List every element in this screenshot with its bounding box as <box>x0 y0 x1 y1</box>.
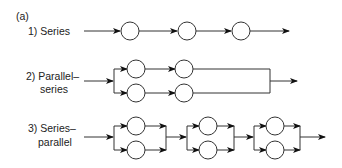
reliability-block-diagram <box>0 0 342 168</box>
component-node <box>199 117 217 135</box>
component-node <box>266 141 284 159</box>
parallel-series-network <box>84 60 297 102</box>
component-node <box>266 117 284 135</box>
series-chain <box>84 22 289 40</box>
component-node <box>127 117 145 135</box>
component-node <box>199 141 217 159</box>
component-node <box>175 60 193 78</box>
component-node <box>127 60 145 78</box>
component-node <box>175 84 193 102</box>
component-node <box>232 22 250 40</box>
component-node <box>127 84 145 102</box>
component-node <box>178 22 196 40</box>
series-parallel-network <box>84 117 325 159</box>
component-node <box>127 141 145 159</box>
component-node <box>121 22 139 40</box>
